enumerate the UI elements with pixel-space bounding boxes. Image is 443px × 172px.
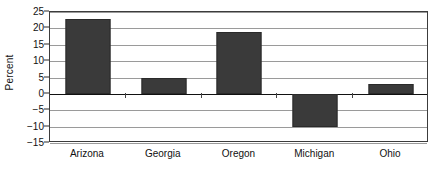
y-tick-label: 25 bbox=[33, 6, 44, 17]
bar[interactable] bbox=[65, 19, 110, 94]
bar-slot bbox=[50, 12, 126, 141]
bars bbox=[50, 12, 427, 141]
x-tick-mark bbox=[352, 93, 353, 98]
bar[interactable] bbox=[369, 84, 414, 94]
bar[interactable] bbox=[141, 78, 186, 94]
bar[interactable] bbox=[217, 32, 262, 94]
y-tick-mark bbox=[44, 11, 49, 12]
y-tick-mark bbox=[44, 27, 49, 28]
y-tick-label: 20 bbox=[33, 22, 44, 33]
bar-slot bbox=[126, 12, 202, 141]
plot-area bbox=[49, 11, 428, 142]
x-axis-tick-labels: ArizonaGeorgiaOregonMichiganOhio bbox=[49, 148, 428, 166]
y-axis-title: Percent bbox=[0, 0, 20, 145]
y-tick-label: −5 bbox=[33, 104, 44, 115]
y-tick-mark bbox=[44, 125, 49, 126]
y-tick-mark bbox=[44, 92, 49, 93]
y-tick-mark bbox=[44, 76, 49, 77]
x-tick-mark bbox=[201, 93, 202, 98]
x-tick-label: Arizona bbox=[70, 148, 104, 159]
bar-slot bbox=[277, 12, 353, 141]
bar[interactable] bbox=[293, 94, 338, 127]
y-tick-label: −10 bbox=[27, 120, 44, 131]
bar-slot bbox=[202, 12, 278, 141]
y-tick-mark bbox=[44, 142, 49, 143]
gridline bbox=[50, 143, 427, 144]
y-tick-label: −15 bbox=[27, 137, 44, 148]
x-tick-mark bbox=[276, 93, 277, 98]
x-tick-label: Oregon bbox=[222, 148, 255, 159]
y-tick-mark bbox=[44, 109, 49, 110]
bar-chart: Percent 2520151050−5−10−15 ArizonaGeorgi… bbox=[0, 0, 443, 172]
y-tick-mark bbox=[44, 43, 49, 44]
y-axis-title-label: Percent bbox=[5, 55, 16, 91]
x-tick-label: Georgia bbox=[145, 148, 181, 159]
y-tick-mark bbox=[44, 60, 49, 61]
x-tick-label: Ohio bbox=[380, 148, 401, 159]
y-tick-label: 10 bbox=[33, 55, 44, 66]
bar-slot bbox=[353, 12, 429, 141]
x-tick-label: Michigan bbox=[294, 148, 334, 159]
y-tick-label: 15 bbox=[33, 38, 44, 49]
x-tick-mark bbox=[125, 93, 126, 98]
